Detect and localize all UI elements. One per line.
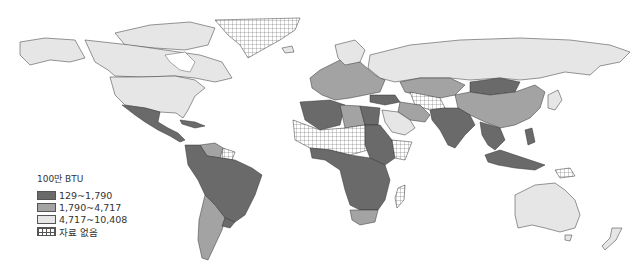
- legend-label-no-data: 자료 없음: [59, 225, 98, 239]
- legend-item-mid: 1,790~4,717: [37, 202, 127, 213]
- region-iceland: [282, 46, 294, 53]
- region-india: [430, 108, 475, 148]
- region-japan: [548, 90, 562, 110]
- region-new-guinea: [555, 168, 575, 178]
- legend-item-high: 4,717~10,408: [37, 214, 127, 225]
- legend-label-mid: 1,790~4,717: [59, 202, 121, 213]
- region-alaska: [20, 38, 85, 65]
- region-philippines: [525, 128, 535, 145]
- region-somalia: [392, 140, 412, 160]
- legend-unit: 100만 BTU: [37, 172, 127, 185]
- region-caribbean: [180, 120, 205, 128]
- legend-item-no-data: 자료 없음: [37, 226, 127, 237]
- legend-swatch-no-data: [37, 227, 56, 236]
- region-new-zealand: [602, 228, 622, 250]
- region-russia: [368, 38, 630, 82]
- region-australia: [515, 183, 580, 232]
- region-south-africa: [350, 210, 378, 225]
- legend-label-low: 129~1,790: [59, 190, 112, 201]
- region-indonesia: [485, 150, 545, 170]
- map-legend: 100만 BTU 129~1,790 1,790~4,717 4,717~10,…: [37, 172, 127, 238]
- legend-swatch-high: [37, 215, 56, 224]
- legend-item-low: 129~1,790: [37, 190, 127, 201]
- region-turkey: [370, 95, 400, 105]
- legend-label-high: 4,717~10,408: [59, 214, 127, 225]
- region-madagascar: [395, 185, 405, 208]
- legend-swatch-low: [37, 191, 56, 200]
- region-tasmania: [565, 235, 572, 241]
- legend-swatch-mid: [37, 203, 56, 212]
